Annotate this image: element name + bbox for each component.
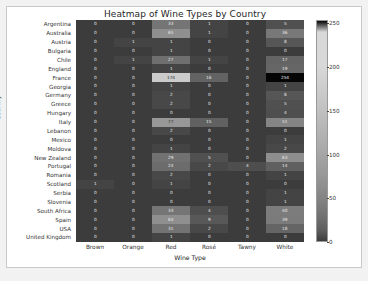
heatmap-cell: 0 [152, 198, 190, 207]
heatmap-cell-value: 0 [284, 235, 287, 239]
heatmap-cell-value: 0 [94, 218, 97, 222]
x-axis-tick-label: White [266, 244, 304, 250]
heatmap-cell: 0 [228, 153, 266, 162]
heatmap-cell-value: 0 [132, 164, 135, 168]
heatmap-cell: 1 [266, 135, 304, 144]
heatmap-cell: 0 [114, 215, 152, 224]
heatmap-cell-value: 0 [132, 147, 135, 151]
heatmap-cell: 0 [114, 162, 152, 171]
heatmap-cell: 63 [266, 153, 304, 162]
heatmap-cell: 24 [152, 162, 190, 171]
heatmap-cell-value: 0 [94, 111, 97, 115]
heatmap-cell-value: 0 [208, 129, 211, 133]
heatmap-cell: 0 [190, 47, 228, 56]
heatmap-cell: 0 [228, 189, 266, 198]
heatmap-cell: 0 [228, 233, 266, 242]
heatmap-cell: 0 [76, 109, 114, 118]
heatmap-cell: 0 [228, 56, 266, 65]
heatmap-cell-value: 0 [94, 235, 97, 239]
y-axis-tick-label: United Kingdom [0, 233, 74, 242]
heatmap-cell-value: 0 [94, 102, 97, 106]
heatmap-cell: 0 [114, 47, 152, 56]
heatmap-cell-value: 31 [168, 227, 173, 231]
heatmap-cell-value: 0 [246, 102, 249, 106]
heatmap-cell: 0 [190, 198, 228, 207]
heatmap-cell: 1 [76, 180, 114, 189]
heatmap-cell: 0 [228, 198, 266, 207]
heatmap-cell: 0 [190, 180, 228, 189]
heatmap-cell-value: 0 [132, 111, 135, 115]
heatmap-cell: 1 [190, 29, 228, 38]
heatmap-cell: 0 [114, 20, 152, 29]
heatmap-cell-value: 0 [246, 49, 249, 53]
heatmap-cell: 29 [152, 153, 190, 162]
heatmap-cell-value: 36 [282, 31, 287, 35]
heatmap-cell: 1 [266, 171, 304, 180]
heatmap-cell-value: 0 [208, 235, 211, 239]
heatmap-cell-value: 2 [170, 129, 173, 133]
heatmap-cell-value: 0 [246, 173, 249, 177]
y-axis-tick-label: Greece [0, 100, 74, 109]
heatmap-cell: 0 [228, 82, 266, 91]
heatmap-cell: 0 [114, 109, 152, 118]
heatmap-cell: 0 [114, 171, 152, 180]
heatmap-cell-value: 1 [208, 58, 211, 62]
heatmap-cell-value: 0 [208, 138, 211, 142]
heatmap-cell: 0 [114, 198, 152, 207]
heatmap-cell: 5 [266, 100, 304, 109]
heatmap-cell-grid: 0033105006510360110080010000127101700100… [76, 20, 304, 242]
heatmap-cell-value: 29 [168, 155, 173, 159]
heatmap-cell-value: 0 [94, 173, 97, 177]
heatmap-cell-value: 0 [208, 40, 211, 44]
heatmap-cell-value: 1 [208, 31, 211, 35]
heatmap-cell: 0 [228, 127, 266, 136]
heatmap-cell: 9 [190, 215, 228, 224]
heatmap-cell: 1 [152, 180, 190, 189]
heatmap-cell: 0 [266, 127, 304, 136]
x-axis-tick-label: Orange [114, 244, 152, 250]
heatmap-cell-value: 2 [284, 147, 287, 151]
heatmap-cell: 0 [114, 127, 152, 136]
chart-title: Heatmap of Wine Types by Country [80, 9, 290, 19]
heatmap-cell-value: 0 [170, 200, 173, 204]
heatmap-cell: 254 [266, 73, 304, 82]
heatmap-cell: 0 [114, 224, 152, 233]
heatmap-cell: 0 [228, 118, 266, 127]
heatmap-cell-value: 0 [208, 49, 211, 53]
heatmap-cell-value: 0 [246, 227, 249, 231]
heatmap-cell-value: 0 [246, 218, 249, 222]
heatmap-cell-value: 0 [132, 200, 135, 204]
heatmap-cell-value: 0 [246, 129, 249, 133]
heatmap-cell: 4 [190, 206, 228, 215]
heatmap-cell: 0 [228, 171, 266, 180]
heatmap-cell: 0 [228, 73, 266, 82]
colorbar-tick-labels: 050100150200250 [329, 20, 355, 242]
heatmap-cell: 1 [190, 56, 228, 65]
heatmap-cell-value: 0 [246, 138, 249, 142]
y-axis-tick-label: Moldova [0, 144, 74, 153]
heatmap-cell-value: 0 [132, 49, 135, 53]
heatmap-cell-value: 0 [246, 200, 249, 204]
heatmap-cell: 0 [76, 38, 114, 47]
heatmap-cell: 31 [152, 224, 190, 233]
heatmap-cell: 77 [152, 118, 190, 127]
y-axis-tick-label: Portugal [0, 162, 74, 171]
heatmap-cell-value: 63 [282, 155, 287, 159]
heatmap-cell-value: 1 [170, 182, 173, 186]
heatmap-cell-value: 0 [208, 182, 211, 186]
heatmap-cell: 0 [76, 64, 114, 73]
heatmap-cell-value: 2 [170, 93, 173, 97]
heatmap-cell-value: 0 [132, 93, 135, 97]
heatmap-cell-value: 0 [132, 67, 135, 71]
heatmap-cell: 1 [266, 198, 304, 207]
heatmap-cell: 0 [190, 189, 228, 198]
heatmap-cell-value: 0 [246, 147, 249, 151]
y-axis-tick-label: Spain [0, 215, 74, 224]
heatmap-cell: 0 [76, 171, 114, 180]
heatmap-cell-value: 0 [94, 67, 97, 71]
heatmap-cell: 0 [114, 118, 152, 127]
heatmap-cell: 0 [228, 224, 266, 233]
heatmap-cell: 1 [152, 144, 190, 153]
x-axis-tick-label: Rosé [190, 244, 228, 250]
heatmap-cell-value: 0 [246, 209, 249, 213]
